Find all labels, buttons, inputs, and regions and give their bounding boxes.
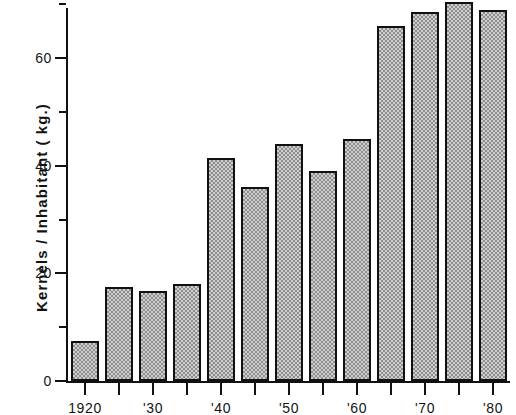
x-tick-minor — [322, 383, 324, 395]
x-tick-minor — [118, 383, 120, 395]
x-tick-label: '70 — [415, 400, 435, 415]
bar — [377, 26, 404, 381]
bar — [105, 287, 132, 381]
bars-layer — [68, 8, 510, 381]
y-tick-minor — [59, 111, 66, 113]
y-tick-major — [55, 165, 66, 167]
x-tick-major — [424, 383, 426, 395]
y-tick-minor — [59, 326, 66, 328]
y-tick-label: 20 — [35, 265, 52, 281]
y-tick-label: 40 — [35, 158, 52, 174]
bar — [445, 2, 472, 382]
bar — [343, 139, 370, 381]
x-tick-label: 1920 — [68, 400, 102, 415]
bar — [173, 284, 200, 381]
x-tick-label: '80 — [483, 400, 503, 415]
x-tick-major — [492, 383, 494, 395]
x-tick-major — [84, 383, 86, 395]
y-tick-minor — [59, 219, 66, 221]
x-tick-major — [288, 383, 290, 395]
bar — [309, 171, 336, 381]
x-tick-minor — [390, 383, 392, 395]
x-tick-label: '50 — [279, 400, 299, 415]
bar — [275, 144, 302, 381]
bar — [411, 12, 438, 381]
x-tick-minor — [186, 383, 188, 395]
y-tick-major — [55, 380, 66, 382]
x-tick-major — [220, 383, 222, 395]
x-tick-minor — [458, 383, 460, 395]
x-tick-major — [152, 383, 154, 395]
y-tick-minor — [59, 3, 66, 5]
bar — [71, 341, 98, 381]
x-tick-label: '40 — [211, 400, 231, 415]
x-tick-minor — [254, 383, 256, 395]
bar — [479, 10, 506, 381]
y-tick-major — [55, 57, 66, 59]
bar — [207, 158, 234, 381]
x-tick-label: '60 — [347, 400, 367, 415]
y-tick-major — [55, 272, 66, 274]
bar — [139, 291, 166, 381]
y-tick-label: 60 — [35, 50, 52, 66]
x-tick-label: '30 — [143, 400, 163, 415]
y-tick-label: 0 — [44, 373, 52, 389]
plot-area: 6040200 1920'30'40'50'60'70'80 — [66, 8, 508, 381]
bar — [241, 187, 268, 381]
x-tick-major — [356, 383, 358, 395]
bar-chart: Kernels / Inhabitant ( kg.) 6040200 1920… — [0, 0, 516, 415]
